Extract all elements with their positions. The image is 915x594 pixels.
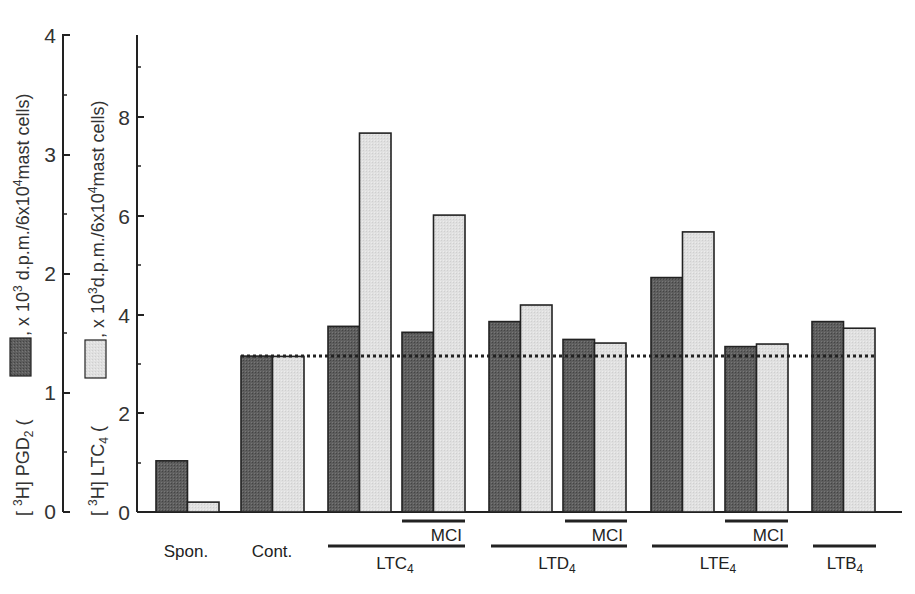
- bar-pgd2-ltc4-mci: [402, 332, 434, 512]
- svg-text:, x 103 d.p.m./6x104mast cells: , x 103 d.p.m./6x104mast cells): [11, 94, 33, 336]
- x-axis-labels: Spon. Cont. MCI LTC4 MCI LTD4 MCI LTE4 L…: [164, 521, 876, 576]
- right-tick-4: 4: [118, 304, 130, 327]
- left-tick-3: 3: [44, 143, 56, 166]
- label-cont: Cont.: [252, 542, 293, 561]
- bar-ltc4-spon-: [188, 502, 220, 512]
- bar-pgd2-spon-: [156, 461, 188, 512]
- bar-pgd2-lte4-mci: [725, 347, 757, 512]
- bar-chart: 0 1 2 3 4 [ 3H] PGD2 ( , x 103 d.p.m./6x…: [0, 0, 915, 594]
- right-tick-6: 6: [118, 205, 130, 228]
- legend-swatch-pgd2: [10, 338, 31, 376]
- bar-pgd2-ltd4-mci: [563, 339, 595, 512]
- svg-text:, x 103d.p.m./6x104mast cells): , x 103d.p.m./6x104mast cells): [86, 101, 108, 338]
- left-axis-title: [ 3H] PGD2 ( , x 103 d.p.m./6x104mast ce…: [10, 94, 36, 516]
- label-mci-ltd4: MCI: [592, 526, 623, 545]
- legend-swatch-ltc4: [85, 340, 106, 378]
- svg-text:[ 3H] PGD2 (: [ 3H] PGD2 (: [11, 420, 36, 516]
- left-tick-0: 0: [44, 500, 56, 523]
- bar-ltc4-lte4-mci: [757, 344, 789, 512]
- label-mci-ltc4: MCI: [431, 526, 462, 545]
- label-mci-lte4: MCI: [753, 526, 784, 545]
- label-ltc4: LTC4: [376, 554, 414, 576]
- bar-ltc4-lte4: [683, 232, 715, 512]
- svg-text:[ 3H] LTC4 (: [ 3H] LTC4 (: [86, 426, 111, 516]
- label-ltb4: LTB4: [827, 554, 864, 576]
- left-tick-1: 1: [44, 381, 56, 404]
- label-spon: Spon.: [164, 542, 208, 561]
- left-tick-2: 2: [44, 262, 56, 285]
- bar-pgd2-ltb4: [812, 322, 844, 512]
- label-ltd4: LTD4: [538, 554, 576, 576]
- right-tick-2: 2: [118, 402, 130, 425]
- left-y-axis: 0 1 2 3 4: [44, 24, 70, 523]
- bar-ltc4-ltd4-mci: [595, 343, 627, 512]
- bars: [156, 133, 875, 512]
- bar-ltc4-cont-: [273, 356, 305, 512]
- label-lte4: LTE4: [700, 554, 737, 576]
- bar-pgd2-ltd4: [489, 322, 521, 512]
- bar-pgd2-cont-: [241, 356, 273, 512]
- bar-ltc4-ltc4-mci: [434, 215, 466, 512]
- right-y-axis: 0 2 4 6 8: [118, 35, 144, 524]
- bar-ltc4-ltc4: [360, 133, 392, 512]
- left-tick-4: 4: [44, 24, 56, 47]
- right-tick-0: 0: [118, 501, 130, 524]
- right-tick-8: 8: [118, 106, 130, 129]
- right-axis-title: [ 3H] LTC4 ( , x 103d.p.m./6x104mast cel…: [85, 101, 111, 516]
- bar-pgd2-lte4: [651, 278, 683, 512]
- bar-ltc4-ltd4: [521, 305, 553, 512]
- bar-pgd2-ltc4: [328, 326, 360, 512]
